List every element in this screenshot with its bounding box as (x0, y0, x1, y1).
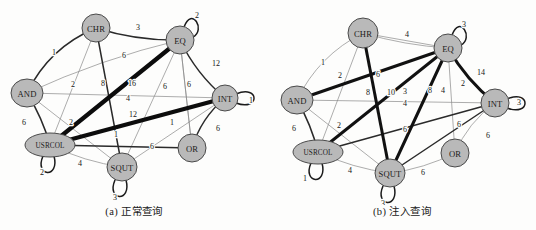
edge-weight-label: 3 (136, 23, 140, 32)
edge-weight-label: 6 (216, 124, 220, 133)
graph-node-chr[interactable]: CHR (348, 18, 378, 48)
edge-weight-label: 8 (428, 86, 432, 95)
graph-edge (297, 100, 495, 103)
graph-edge (180, 40, 192, 148)
graph-node-eq[interactable]: EQ (166, 26, 194, 54)
edge-weight-label: 4 (348, 166, 352, 175)
panel-caption-b: (b) 注入查询 (268, 203, 536, 218)
graph-node-squt[interactable]: SQUT (375, 159, 405, 187)
self-loop-weight-label: 2 (195, 11, 199, 20)
graph-panel-a: CHREQANDINTUSRCOLSQUTOR66224466662211114… (0, 0, 268, 230)
panel-caption-a: (a) 正常查询 (0, 203, 268, 218)
node-label: INT (218, 94, 233, 104)
edge-weight-label: 2 (69, 118, 73, 127)
edge-weight-label: 6 (376, 70, 380, 79)
edge-weight-label: 6 (187, 80, 191, 89)
graph-edge (297, 48, 448, 100)
self-loop-weight-label: 2 (40, 168, 44, 177)
graph-node-chr[interactable]: CHR (82, 14, 110, 42)
node-label: OR (186, 144, 198, 154)
graph-node-squt[interactable]: SQUT (107, 153, 137, 181)
edge-weight-label: 6 (163, 82, 167, 91)
edge-weight-label: 4 (441, 86, 445, 95)
node-label: AND (288, 96, 307, 106)
edge-weight-label: 1 (321, 58, 325, 67)
node-label: USRCOL (304, 149, 333, 157)
self-loop-weight-label: 1 (303, 174, 307, 183)
edge-weight-label: 6 (403, 125, 407, 134)
graph-node-int[interactable]: INT (481, 89, 509, 117)
graph-node-eq[interactable]: EQ (434, 34, 462, 62)
node-label: INT (488, 99, 503, 109)
edge-weight-label: 10 (387, 88, 395, 97)
graph-node-usrcol[interactable]: USRCOL (25, 133, 75, 157)
edge-weight-label: 4 (78, 159, 82, 168)
edge-weight-label: 12 (129, 110, 137, 119)
edge-weight-label: 1 (114, 130, 118, 139)
edge-weight-label: 6 (22, 118, 26, 127)
edge-weight-label: 8 (101, 79, 105, 88)
self-loop-edge (507, 97, 525, 110)
node-label: USRCOL (36, 142, 65, 150)
graph-node-and[interactable]: AND (11, 79, 43, 107)
graph-edge (448, 48, 455, 153)
edge-weight-label: 2 (337, 121, 341, 130)
edge-weight-label: 12 (212, 59, 220, 68)
self-loop-weight-label: 1 (249, 96, 253, 105)
edge-weight-label: 3 (403, 87, 407, 96)
edge-weight-label: 16 (128, 79, 136, 88)
self-loop-weight-label: 3 (462, 20, 466, 29)
edge-weight-label: 1 (170, 118, 174, 127)
node-label: CHR (87, 24, 105, 34)
edge-weight-label: 2 (71, 80, 75, 89)
edge-weight-label: 6 (122, 51, 126, 60)
node-label: SQUT (111, 163, 134, 173)
edge-weight-label: 6 (457, 120, 461, 129)
self-loop-edge (309, 163, 323, 180)
edge-weight-label: 2 (338, 71, 342, 80)
edge-weight-label: 6 (150, 142, 154, 151)
node-label: SQUT (379, 169, 402, 179)
graph-node-and[interactable]: AND (281, 86, 313, 114)
node-label: EQ (174, 36, 186, 46)
graph-edge (363, 33, 390, 173)
node-label: EQ (442, 44, 454, 54)
graph-node-int[interactable]: INT (212, 85, 238, 111)
edge-weight-label: 4 (405, 30, 409, 39)
edge-weight-label: 4 (403, 99, 407, 108)
graph-node-or[interactable]: OR (178, 134, 206, 162)
edge-weight-label: 1 (52, 48, 56, 57)
edge-weight-label: 6 (292, 124, 296, 133)
node-label: CHR (354, 29, 372, 39)
edge-weight-label: 2 (461, 79, 465, 88)
figure-container: CHREQANDINTUSRCOLSQUTOR66224466662211114… (0, 0, 536, 230)
graph-node-or[interactable]: OR (441, 139, 469, 167)
node-label: OR (449, 149, 461, 159)
graph-panel-b: CHREQANDINTUSRCOLSQUTOR11442233442244224… (268, 0, 536, 230)
node-label: AND (18, 89, 37, 99)
self-loop-weight-label: 3 (517, 98, 521, 107)
edge-weight-label: 6 (486, 131, 490, 140)
edge-weight-label: 4 (126, 94, 130, 103)
graph-svg-b: CHREQANDINTUSRCOLSQUTOR11442233442244224… (268, 0, 536, 205)
edge-weight-label: 6 (421, 168, 425, 177)
graph-svg-a: CHREQANDINTUSRCOLSQUTOR66224466662211114… (0, 0, 268, 205)
edge-weight-label: 14 (477, 68, 485, 77)
graph-node-usrcol[interactable]: USRCOL (293, 140, 343, 164)
self-loop-weight-label: 3 (113, 193, 117, 202)
edge-weight-label: 8 (366, 88, 370, 97)
